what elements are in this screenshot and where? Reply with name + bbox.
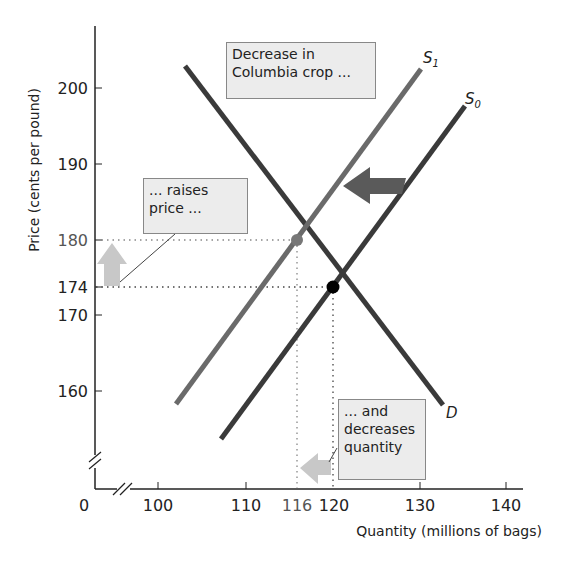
crop-note-line-2: Columbia crop ... (232, 63, 370, 81)
price-note-line-2: price ... (149, 199, 242, 217)
y-tick-174: 174 (57, 278, 88, 297)
y-tick-170: 170 (57, 306, 88, 325)
y-axis-label: Price (cents per pound) (26, 88, 42, 252)
x-ticks: 0 100 110 116 120 130 140 (79, 482, 521, 515)
x-axis-label: Quantity (millions of bags) (356, 523, 542, 539)
demand-curve (185, 66, 443, 405)
y-tick-190: 190 (57, 155, 88, 174)
origin-label: 0 (79, 496, 89, 515)
y-tick-180: 180 (57, 231, 88, 250)
quantity-left-arrow-icon (300, 453, 331, 484)
original-equilibrium-point (327, 281, 340, 294)
crop-note-line-1: Decrease in (232, 45, 370, 63)
x-tick-116: 116 (282, 496, 313, 515)
quantity-note-line-3: quantity (344, 438, 420, 456)
x-tick-120: 120 (319, 496, 350, 515)
quantity-note-pointer (329, 448, 337, 462)
quantity-note-line-2: decreases (344, 420, 420, 438)
x-tick-130: 130 (405, 496, 436, 515)
price-note-pointer (120, 234, 175, 282)
y-tick-160: 160 (57, 382, 88, 401)
x-tick-110: 110 (231, 496, 262, 515)
s0-label: S0 (465, 90, 481, 110)
raises-price-note: ... raises price ... (143, 178, 248, 234)
x-tick-140: 140 (491, 496, 522, 515)
y-tick-200: 200 (57, 79, 88, 98)
decreases-quantity-note: ... and decreases quantity (338, 399, 426, 480)
quantity-note-line-1: ... and (344, 402, 420, 420)
price-note-line-1: ... raises (149, 181, 242, 199)
s1-label: S1 (423, 49, 439, 69)
crop-decrease-note: Decrease in Columbia crop ... (226, 42, 376, 99)
demand-label: D (446, 404, 458, 422)
x-tick-100: 100 (143, 496, 174, 515)
new-equilibrium-point (291, 234, 303, 246)
guide-lines (96, 240, 333, 488)
